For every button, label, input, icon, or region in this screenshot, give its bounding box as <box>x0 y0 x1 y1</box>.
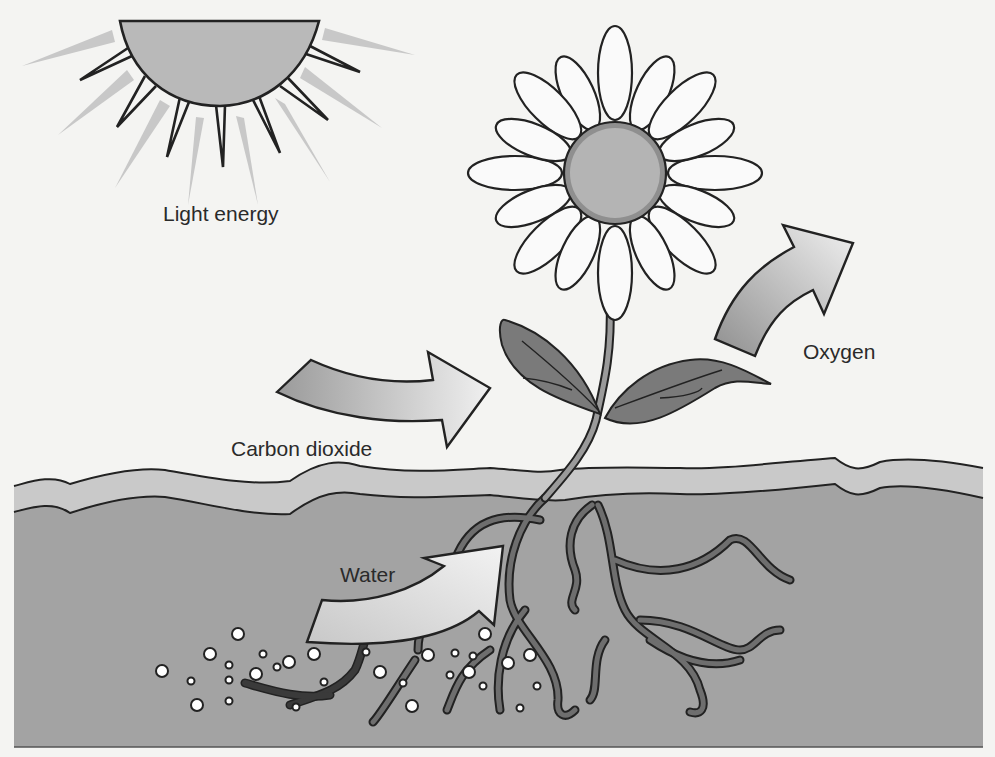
carbon-dioxide-arrow <box>277 352 490 447</box>
oxygen-label: Oxygen <box>803 341 875 362</box>
diagram-canvas <box>0 0 995 757</box>
water-label: Water <box>340 564 395 585</box>
light-energy-label: Light energy <box>163 203 279 224</box>
flower <box>468 26 762 320</box>
photosynthesis-diagram: Light energy Carbon dioxide Oxygen Water <box>0 0 995 757</box>
carbon-dioxide-label: Carbon dioxide <box>231 438 372 459</box>
oxygen-arrow <box>715 225 853 356</box>
right-leaf <box>605 359 771 423</box>
left-leaf <box>500 320 600 414</box>
sun-icon <box>22 21 415 205</box>
